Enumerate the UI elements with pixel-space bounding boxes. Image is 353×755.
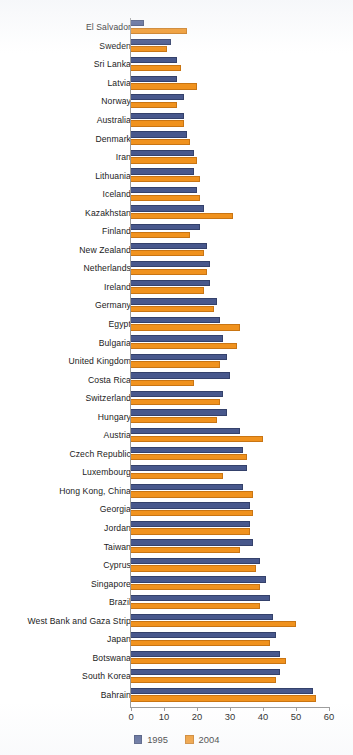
bar-1995	[131, 521, 250, 527]
bar-2004	[131, 380, 194, 386]
bar-2004	[131, 399, 220, 405]
bar-1995	[131, 298, 217, 304]
bar-group	[131, 111, 341, 130]
category-label: Taiwan	[104, 542, 131, 551]
bar-group	[131, 686, 341, 705]
bar-1995	[131, 243, 207, 249]
bar-row: Taiwan	[0, 537, 353, 556]
category-label: Denmark	[95, 134, 131, 143]
bar-group	[131, 278, 341, 297]
bar-1995	[131, 428, 240, 434]
bar-group	[131, 352, 341, 371]
category-label: Luxembourg	[82, 468, 131, 477]
bar-row: Hungary	[0, 407, 353, 426]
bar-row: Iceland	[0, 185, 353, 204]
bar-row: Jordan	[0, 519, 353, 538]
bar-group	[131, 315, 341, 334]
category-label: Jordan	[104, 524, 131, 533]
legend-label-2004: 2004	[199, 735, 220, 744]
category-label: Cyprus	[103, 561, 131, 570]
bar-group	[131, 185, 341, 204]
bar-1995	[131, 57, 177, 63]
bar-group	[131, 296, 341, 315]
bar-1995	[131, 168, 194, 174]
bar-2004	[131, 491, 253, 497]
bar-1995	[131, 20, 144, 26]
bar-row: Switzerland	[0, 389, 353, 408]
bar-row: Latvia	[0, 74, 353, 93]
x-tick-label: 0	[128, 712, 133, 721]
bar-group	[131, 500, 341, 519]
bar-row: New Zealand	[0, 241, 353, 260]
category-label: Singapore	[91, 579, 131, 588]
category-label: Iran	[116, 153, 131, 162]
bar-row: Lithuania	[0, 166, 353, 185]
bar-2004	[131, 603, 260, 609]
bar-2004	[131, 120, 184, 126]
bar-1995	[131, 688, 313, 694]
bar-1995	[131, 354, 227, 360]
category-label: Costa Rica	[88, 375, 131, 384]
bar-2004	[131, 65, 181, 71]
bar-2004	[131, 195, 200, 201]
bar-group	[131, 259, 341, 278]
bar-group	[131, 574, 341, 593]
bar-2004	[131, 695, 316, 701]
category-label: Bahrain	[101, 691, 131, 700]
bar-1995	[131, 94, 184, 100]
bar-2004	[131, 269, 207, 275]
bar-group	[131, 407, 341, 426]
category-label: Norway	[101, 97, 131, 106]
category-label: Czech Republic	[69, 450, 131, 459]
category-label: Egypt	[109, 320, 131, 329]
bar-row: Luxembourg	[0, 463, 353, 482]
legend-item-2004[interactable]: 2004	[185, 735, 219, 744]
bar-row: Ireland	[0, 278, 353, 297]
bar-group	[131, 166, 341, 185]
bar-row: Japan	[0, 630, 353, 649]
category-label: United Kingdom	[68, 357, 131, 366]
bar-1995	[131, 391, 223, 397]
y-axis-line	[130, 18, 131, 708]
bar-2004	[131, 306, 214, 312]
bar-group	[131, 426, 341, 445]
bar-2004	[131, 287, 204, 293]
bar-row: Brazil	[0, 593, 353, 612]
bar-row: Australia	[0, 111, 353, 130]
category-label: Sweden	[99, 42, 131, 51]
legend-swatch-1995-icon	[134, 735, 143, 744]
x-tick-label: 10	[159, 712, 169, 721]
bar-row: South Korea	[0, 667, 353, 686]
category-label: Ireland	[104, 283, 131, 292]
bar-1995	[131, 409, 227, 415]
bar-row: Singapore	[0, 574, 353, 593]
bar-2004	[131, 454, 247, 460]
bar-rows: El SalvadorSwedenSri LankaLatviaNorwayAu…	[0, 18, 353, 704]
category-label: Georgia	[100, 505, 131, 514]
bar-2004	[131, 510, 253, 516]
bar-1995	[131, 484, 243, 490]
bar-1995	[131, 632, 276, 638]
bar-1995	[131, 280, 210, 286]
bar-2004	[131, 658, 286, 664]
bar-group	[131, 556, 341, 575]
bar-row: Cyprus	[0, 556, 353, 575]
category-label: New Zealand	[79, 246, 131, 255]
bar-row: Botswana	[0, 649, 353, 668]
bar-group	[131, 148, 341, 167]
bar-2004	[131, 102, 177, 108]
bar-row: Sri Lanka	[0, 55, 353, 74]
category-label: Kazakhstan	[85, 208, 131, 217]
plot-area: El SalvadorSwedenSri LankaLatviaNorwayAu…	[0, 18, 353, 706]
bar-row: Bulgaria	[0, 333, 353, 352]
bar-group	[131, 222, 341, 241]
x-tick-label: 60	[324, 712, 334, 721]
category-label: Sri Lanka	[94, 60, 131, 69]
legend-item-1995[interactable]: 1995	[134, 735, 168, 744]
bar-1995	[131, 651, 280, 657]
bar-1995	[131, 131, 187, 137]
bar-group	[131, 18, 341, 37]
bar-group	[131, 593, 341, 612]
legend-swatch-2004-icon	[185, 735, 194, 744]
bar-1995	[131, 558, 260, 564]
